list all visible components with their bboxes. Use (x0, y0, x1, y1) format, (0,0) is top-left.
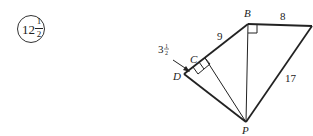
segment-CP (205, 58, 246, 122)
geometry-diagram: B C D P 9 8 17 3 1 2 (0, 0, 313, 136)
measure-CD-denominator: 2 (165, 50, 168, 56)
right-angle-C-2 (193, 67, 204, 74)
measure-CD-numerator: 1 (165, 43, 168, 49)
measure-BC: 9 (217, 30, 223, 42)
measure-CD-whole: 3 (158, 43, 164, 55)
segment-BP (246, 24, 248, 122)
measure-right-P: 17 (285, 72, 297, 84)
label-P: P (241, 124, 249, 136)
edge-right-P (246, 26, 312, 122)
label-D: D (172, 70, 181, 82)
edge-DP (184, 74, 246, 122)
edge-DB (184, 24, 248, 74)
right-angle-B (248, 24, 257, 33)
label-B: B (244, 7, 251, 19)
measure-B-right: 8 (280, 10, 286, 22)
edge-B-right (248, 24, 312, 26)
label-C: C (190, 53, 198, 65)
